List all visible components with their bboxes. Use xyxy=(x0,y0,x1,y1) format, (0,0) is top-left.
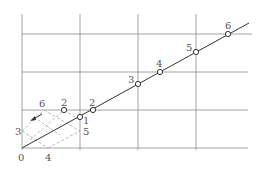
point-2-off-line-label: 2 xyxy=(61,97,67,108)
point-3 xyxy=(135,81,140,86)
point-6 xyxy=(225,31,230,36)
point-3-label: 3 xyxy=(128,74,134,85)
point-1 xyxy=(77,114,82,119)
dashed-construction xyxy=(22,110,80,148)
point-2-on-line-label: 2 xyxy=(89,97,95,108)
dashed-top-label: 6 xyxy=(39,98,45,109)
point-2-on-line xyxy=(90,107,95,112)
point-4 xyxy=(157,69,162,74)
origin-label: 0 xyxy=(18,152,24,163)
points xyxy=(61,31,230,119)
point-1-label: 1 xyxy=(83,115,89,126)
diagram-canvas: 0 4 3 6 5 1 2 2 3 4 5 6 xyxy=(0,0,264,171)
arrow-icon xyxy=(30,114,42,121)
point-4-label: 4 xyxy=(156,58,162,69)
point-5 xyxy=(193,49,198,54)
point-2-off-line xyxy=(61,107,66,112)
x-axis-label: 4 xyxy=(45,152,51,163)
point-5-label: 5 xyxy=(186,42,192,53)
dashed-right-label: 5 xyxy=(83,126,89,137)
y-axis-label: 3 xyxy=(15,126,21,137)
point-6-label: 6 xyxy=(225,20,231,31)
